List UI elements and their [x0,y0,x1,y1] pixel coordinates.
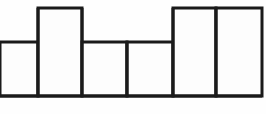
bar-segment-2 [38,8,82,96]
bar-outline-chart [0,0,266,114]
bar-segment-1 [0,42,38,96]
figure-canvas: Step bar outline [0,0,266,114]
bar-segment-4 [127,42,173,96]
bar-segment-3 [82,42,127,96]
bar-segment-6 [216,8,262,96]
bar-segment-5 [173,8,216,96]
